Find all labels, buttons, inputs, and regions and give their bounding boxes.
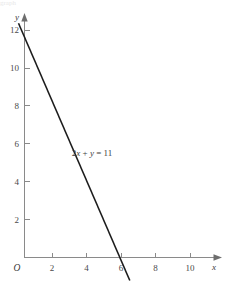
plot-area: 2 4 6 8 10 12 2 4 6 8 10 O x y 2x + y = … <box>0 0 231 285</box>
y-tick-label: 2 <box>15 215 20 225</box>
y-tick-label: 6 <box>15 139 20 149</box>
x-tick-label: 10 <box>186 263 196 273</box>
y-tick-label: 10 <box>10 63 20 73</box>
x-axis-arrow-icon <box>214 254 223 260</box>
y-tick-label: 4 <box>15 177 20 187</box>
y-axis-label: y <box>14 12 19 22</box>
line-graph-figure: graph 2 4 6 8 10 12 2 4 6 8 10 <box>0 0 231 285</box>
y-tick-label: 8 <box>15 101 20 111</box>
x-tick-label: 4 <box>84 263 89 273</box>
y-tick-label: 12 <box>10 25 19 35</box>
y-axis-arrow-icon <box>21 13 27 22</box>
x-axis-label: x <box>211 262 216 272</box>
x-tick-label: 2 <box>50 263 55 273</box>
origin-label: O <box>14 263 21 273</box>
equation-constant: 11 <box>103 148 112 158</box>
x-tick-label: 8 <box>153 263 158 273</box>
equation-annotation: 2x + y = 11 <box>72 148 112 158</box>
